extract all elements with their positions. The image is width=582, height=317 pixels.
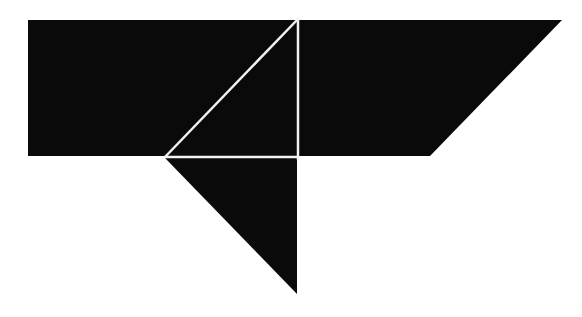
tangram-figure [0, 0, 582, 317]
left-square-block [28, 20, 297, 156]
